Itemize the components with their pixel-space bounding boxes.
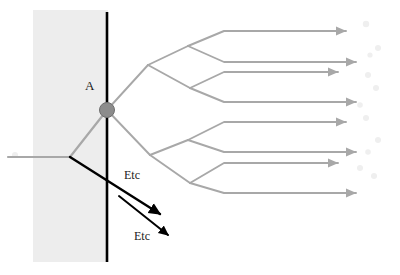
outgoing-ray-group xyxy=(188,31,356,193)
branch-l1u-a xyxy=(148,46,188,65)
node-a-label: A xyxy=(85,79,94,92)
outgoing-ray-6 xyxy=(188,140,356,152)
branch-l1u-b xyxy=(148,65,190,88)
outgoing-ray-5 xyxy=(188,122,346,140)
ray-diagram-figure: A Etc Etc xyxy=(0,0,400,275)
outgoing-ray-4 xyxy=(190,88,356,102)
ray-branching-tree xyxy=(107,46,190,183)
etc-label-upper: Etc xyxy=(124,169,140,181)
outgoing-ray-7 xyxy=(190,163,338,183)
medium-shading xyxy=(33,10,108,262)
node-a-marker xyxy=(100,103,115,118)
branch-l1l-b xyxy=(150,155,190,183)
outgoing-ray-3 xyxy=(190,72,338,88)
outgoing-ray-8 xyxy=(190,183,356,193)
diagram-canvas xyxy=(0,0,400,275)
outgoing-ray-1 xyxy=(188,31,346,46)
branch-l1l-a xyxy=(150,140,188,155)
branch-root-lower xyxy=(107,110,150,155)
etc-label-lower: Etc xyxy=(134,230,150,242)
branch-root-upper xyxy=(107,65,148,110)
outgoing-ray-2 xyxy=(188,46,356,62)
